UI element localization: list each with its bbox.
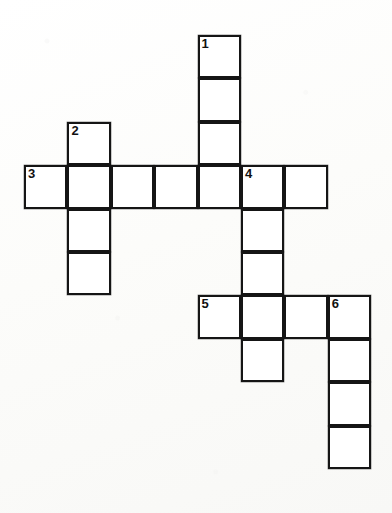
cell-number-2: 2 (71, 124, 78, 137)
crossword-cell[interactable] (241, 295, 284, 338)
crossword-cell[interactable] (198, 165, 241, 208)
cell-number-5: 5 (202, 297, 209, 310)
crossword-cell[interactable] (241, 339, 284, 382)
crossword-cell[interactable] (154, 165, 197, 208)
crossword-cell[interactable] (67, 209, 110, 252)
crossword-cell[interactable] (328, 426, 371, 469)
cell-number-6: 6 (332, 297, 339, 310)
crossword-cell[interactable] (241, 209, 284, 252)
crossword-cell[interactable]: 6 (328, 295, 371, 338)
cell-number-3: 3 (28, 167, 35, 180)
crossword-cell[interactable] (67, 252, 110, 295)
crossword-cell[interactable]: 5 (198, 295, 241, 338)
crossword-cell[interactable] (284, 295, 327, 338)
crossword-cell[interactable]: 2 (67, 122, 110, 165)
cell-number-4: 4 (245, 167, 252, 180)
crossword-cell[interactable] (198, 122, 241, 165)
crossword-cell[interactable] (328, 382, 371, 425)
crossword-cell[interactable] (241, 252, 284, 295)
crossword-cell[interactable]: 4 (241, 165, 284, 208)
crossword-cell[interactable] (284, 165, 327, 208)
crossword-cell[interactable]: 3 (24, 165, 67, 208)
crossword-cell[interactable] (328, 339, 371, 382)
crossword-grid[interactable]: 123456 (0, 0, 392, 513)
cell-number-1: 1 (202, 37, 209, 50)
crossword-cell[interactable] (198, 78, 241, 121)
crossword-cell[interactable] (67, 165, 110, 208)
crossword-cell[interactable] (111, 165, 154, 208)
crossword-cell[interactable]: 1 (198, 35, 241, 78)
